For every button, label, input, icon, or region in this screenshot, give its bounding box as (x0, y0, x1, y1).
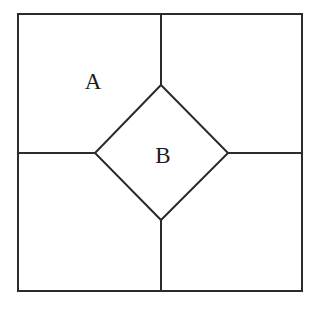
geometry-figure: A B (0, 0, 313, 314)
region-label-b: B (155, 144, 170, 167)
region-label-a: A (85, 70, 102, 93)
